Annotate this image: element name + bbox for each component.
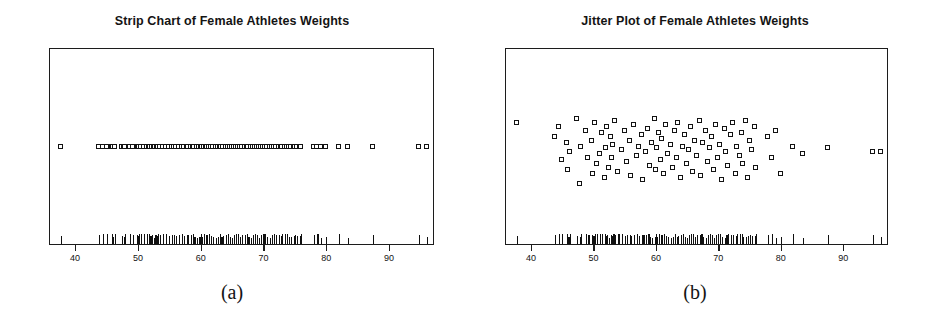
rug-tick [602,234,603,244]
x-axis-tick [781,245,782,251]
rug-tick [103,234,104,244]
data-point [647,163,652,168]
data-point [659,136,664,141]
data-point [606,165,611,170]
rug-tick [176,236,177,244]
data-point [680,144,685,149]
x-axis-tick [326,245,327,251]
data-point [753,165,758,170]
rug-tick [581,234,582,244]
data-point [773,128,778,133]
rug-tick [223,236,224,245]
rug-tick [99,235,100,244]
data-point [622,128,627,133]
data-point [639,132,644,137]
data-point [610,142,615,147]
rug-tick [285,234,286,244]
data-point [694,153,699,158]
rug-tick [627,235,628,244]
rug-tick [169,236,170,244]
x-axis-tick-label: 80 [321,253,331,263]
rug-tick [697,235,698,244]
rug-tick [326,237,327,244]
data-point [556,124,561,129]
rug-tick [339,234,340,244]
data-point [778,171,783,176]
rug-tick [731,235,732,244]
data-point [690,169,695,174]
data-point [652,116,657,121]
rug-tick [650,237,651,244]
rug-tick [793,234,794,244]
x-axis-tick-label: 80 [776,253,786,263]
data-point [717,142,722,147]
rug-tick [643,235,644,244]
panel-b-caption: (b) [463,281,927,304]
rug-tick [517,236,518,244]
data-point [323,144,328,149]
rug-tick [141,234,142,244]
rug-tick [172,235,173,244]
panel-a-caption: (a) [0,281,464,304]
data-point [567,149,572,154]
data-point [577,181,582,186]
panel-a-title: Strip Chart of Female Athletes Weights [0,14,464,28]
data-point [649,140,654,145]
rug-tick [248,237,249,244]
rug-tick [274,234,275,244]
data-point [298,144,303,149]
data-point [612,118,617,123]
data-point [603,145,608,150]
x-axis-tick [138,245,139,251]
rug-tick [772,234,773,244]
data-point [682,132,687,137]
data-point [675,120,680,125]
panel-a-plot-area [50,49,433,244]
data-point [599,130,604,135]
rug-tick [678,236,679,245]
rug-tick [577,236,578,244]
rug-tick [737,234,738,244]
rug-tick [279,235,280,244]
rug-tick [615,235,616,244]
data-point [585,155,590,160]
panel-b-x-axis-line [505,244,888,245]
data-point [645,126,650,131]
x-axis-tick [656,245,657,251]
data-point [336,144,341,149]
rug-tick [297,236,298,244]
data-point [692,138,697,143]
rug-tick [743,237,744,244]
data-point [684,161,689,166]
data-point [749,147,754,152]
rug-tick [133,235,134,244]
data-point [725,163,730,168]
rug-tick [710,234,711,244]
data-point [723,149,728,154]
rug-tick [685,237,686,244]
rug-tick [194,237,195,244]
data-point [698,173,703,178]
rug-tick [781,237,782,244]
rug-tick [160,235,161,244]
data-point [640,177,645,182]
rug-tick [555,235,556,244]
x-axis-tick-label: 40 [526,253,536,263]
rug-tick [618,234,619,244]
data-point [112,144,117,149]
rug-tick [373,235,374,244]
data-point [370,144,375,149]
rug-tick [691,234,692,244]
rug-tick [130,234,131,244]
data-point [658,157,663,162]
rug-tick [115,234,116,244]
rug-tick [163,234,164,244]
rug-tick [722,237,723,244]
rug-tick [184,236,185,244]
rug-tick [107,234,108,244]
data-point [670,165,675,170]
data-point [715,155,720,160]
data-point [769,155,774,160]
data-point [665,151,670,156]
rug-tick [559,234,560,244]
